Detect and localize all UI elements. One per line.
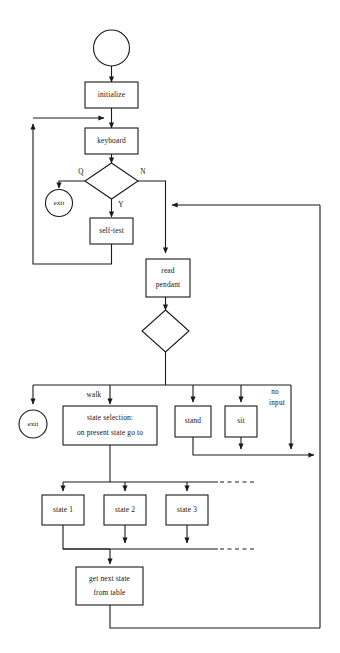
label-state-3: state 3 [177,505,197,514]
node-start [94,30,130,66]
edge-stand-to-merge [193,437,241,455]
label-sit: sit [237,416,245,425]
label-state-2: state 2 [115,505,135,514]
label-get-next-state-line2: from table [93,588,126,597]
label-keyboard: keyboard [97,136,126,145]
edge-state-1-to-collector [63,525,110,549]
label-state-1: state 1 [53,505,73,514]
edge-label-walk: walk [87,391,102,399]
edge-label-no-input-line1: no [271,388,279,396]
edge-label-n: N [140,168,146,176]
label-initialize: initialize [98,90,126,99]
label-read-pendant-line2: pendant [156,280,181,289]
label-exit-top: exit [53,199,64,207]
label-read-pendant-line1: read [161,266,174,275]
label-exit-bottom: exit [27,420,38,428]
flowchart-diagram: initialize keyboard exit self-test read … [0,0,340,653]
label-state-selection-line1: state selection: [87,413,133,422]
edge-decision-n-to-readpendant [138,181,166,253]
node-decision-pendant [142,310,189,352]
edge-label-no-input-line2: input [269,399,285,407]
node-decision-qny [85,163,138,199]
label-self-test: self-test [99,226,125,235]
label-stand: stand [185,416,202,425]
edge-get-next-state-return [110,605,320,628]
label-state-selection-line2: on present state go to [77,428,143,437]
edge-label-q: Q [78,168,84,176]
label-get-next-state-line1: get next state [89,574,131,583]
edge-decision-q-to-exit [59,181,85,188]
edge-label-y: Y [118,201,124,209]
node-read-pendant [146,259,190,297]
flowchart-canvas: initialize keyboard exit self-test read … [0,0,340,653]
node-get-next-state [76,567,143,605]
